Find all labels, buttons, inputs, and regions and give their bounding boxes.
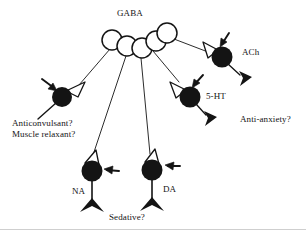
dopamine-neuron-axon-terminal — [140, 197, 164, 211]
label-gaba: GABA — [117, 8, 143, 19]
dopamine-neuron-group — [140, 149, 180, 211]
effect-label-anti-anxiety: Anti-anxiety? — [240, 114, 291, 125]
connection-gaba-to-ach-cell — [174, 39, 208, 52]
dopamine-neuron-action-arrow — [165, 162, 180, 170]
ach-neuron-action-arrow — [220, 33, 229, 47]
effect-label-sedative: Sedative? — [109, 212, 145, 223]
noradrenaline-neuron-axon-terminal — [80, 198, 104, 212]
ach-neuron-group — [203, 33, 252, 86]
effect-label-muscle-relaxant: Muscle relaxant? — [12, 129, 75, 140]
left-neuron-group — [38, 79, 85, 119]
gaba-cell-chain — [102, 23, 177, 58]
connection-gaba-to-5ht-cell — [153, 51, 179, 82]
figure-bottom-rule — [0, 229, 306, 230]
gaba-soma-5 — [157, 23, 177, 43]
serotonin-neuron-axon — [196, 104, 206, 115]
label-dopamine: DA — [163, 184, 176, 195]
serotonin-neuron-axon-terminal — [204, 111, 217, 126]
ach-neuron-soma — [212, 47, 233, 68]
connection-gaba-to-da-cell — [141, 58, 150, 154]
left-neuron-action-arrow — [42, 79, 57, 91]
ach-neuron-axon-terminal — [239, 71, 252, 86]
label-serotonin: 5-HT — [206, 91, 226, 102]
label-ach: ACh — [242, 47, 259, 58]
noradrenaline-neuron-group — [80, 150, 119, 212]
serotonin-neuron-action-arrow — [192, 75, 203, 88]
noradrenaline-neuron-soma — [82, 161, 103, 182]
connection-gaba-to-left-cell — [79, 49, 110, 85]
figure-root: GABA ACh 5-HT NA DA Anticonvulsant? Musc… — [0, 0, 306, 235]
label-noradrenaline: NA — [72, 186, 85, 197]
dopamine-neuron-soma — [142, 160, 163, 181]
ach-neuron-axon — [228, 64, 240, 75]
connection-gaba-to-na-cell — [93, 56, 126, 155]
effect-label-anticonvulsant: Anticonvulsant? — [12, 118, 75, 129]
noradrenaline-neuron-action-arrow — [104, 166, 119, 174]
effect-label-anticonvulsant-group: Anticonvulsant? Muscle relaxant? — [12, 118, 75, 140]
left-neuron-axon — [38, 103, 56, 119]
serotonin-neuron-soma — [180, 87, 201, 108]
